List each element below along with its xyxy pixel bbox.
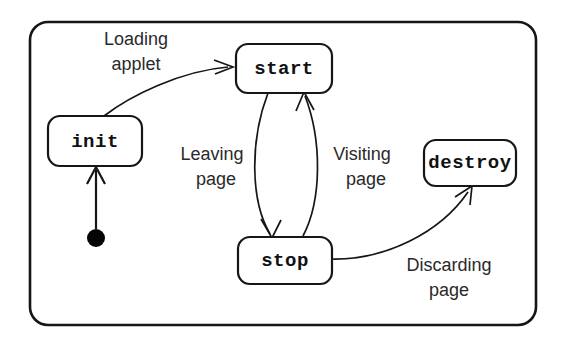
state-init-label: init <box>71 131 119 153</box>
state-init[interactable]: init <box>48 116 142 166</box>
edge-label-visiting-page-line1: Visiting <box>333 144 391 164</box>
state-diagram-svg: init start stop destroy Loading applet L… <box>0 0 565 347</box>
state-stop-label: stop <box>261 250 309 272</box>
edge-label-discarding-page-line2: page <box>429 280 469 300</box>
state-diagram-canvas: init start stop destroy Loading applet L… <box>0 0 565 347</box>
state-start[interactable]: start <box>236 44 332 93</box>
edge-label-discarding-page-line1: Discarding <box>406 255 491 275</box>
initial-state-dot <box>87 229 105 247</box>
edge-label-loading-applet-line2: applet <box>111 54 160 74</box>
edge-label-loading-applet-line1: Loading <box>104 29 168 49</box>
edge-label-visiting-page-line2: page <box>346 169 386 189</box>
state-start-label: start <box>254 58 314 80</box>
edge-label-leaving-page-line2: page <box>196 169 236 189</box>
state-destroy[interactable]: destroy <box>424 140 516 186</box>
state-destroy-label: destroy <box>428 152 511 174</box>
state-stop[interactable]: stop <box>238 237 332 284</box>
edge-label-leaving-page-line1: Leaving <box>180 144 243 164</box>
